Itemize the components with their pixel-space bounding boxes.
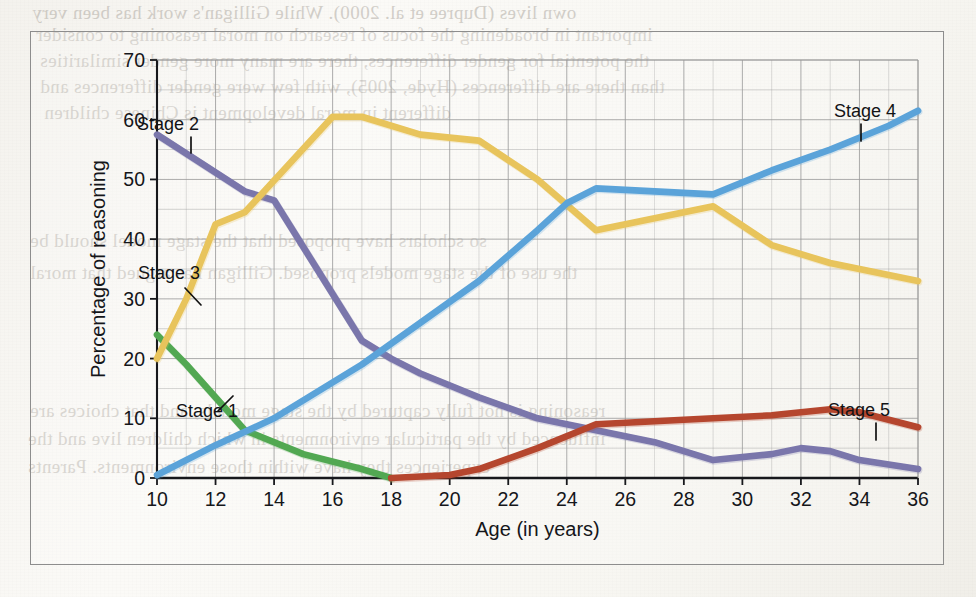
y-tick-label: 50: [123, 168, 145, 190]
y-tick-label: 20: [123, 348, 145, 370]
y-tick-label: 30: [123, 288, 145, 310]
x-tick-label: 16: [322, 488, 344, 510]
x-tick-label: 20: [439, 488, 461, 510]
x-tick-label: 32: [790, 488, 812, 510]
chart-annotations: Stage 1Stage 2Stage 3Stage 4Stage 5: [137, 101, 896, 440]
x-tick-label: 34: [849, 488, 871, 510]
x-tick-label: 22: [497, 488, 519, 510]
x-tick-label: 30: [732, 488, 754, 510]
x-tick-label: 26: [614, 488, 636, 510]
series-label-stage-1: Stage 1: [176, 401, 238, 421]
y-tick-label: 40: [123, 228, 145, 250]
x-tick-label: 18: [380, 488, 402, 510]
y-axis-title: Percentage of reasoning: [87, 160, 109, 378]
x-axis-title: Age (in years): [475, 518, 600, 540]
x-tick-label: 14: [263, 488, 285, 510]
y-tick-label: 70: [123, 49, 145, 71]
x-tick-label: 36: [907, 488, 929, 510]
chart-svg: 0102030405060701012141618202224262830323…: [0, 0, 976, 597]
series-label-stage-4: Stage 4: [834, 101, 896, 121]
line-chart: 0102030405060701012141618202224262830323…: [0, 0, 976, 597]
x-tick-label: 24: [556, 488, 578, 510]
y-tick-label: 10: [123, 407, 145, 429]
x-tick-label: 28: [673, 488, 695, 510]
series-label-stage-2: Stage 2: [137, 114, 199, 134]
chart-series-layer: [157, 111, 919, 479]
y-tick-label: 0: [134, 467, 145, 489]
x-tick-label: 10: [146, 488, 168, 510]
series-label-stage-3: Stage 3: [138, 263, 200, 283]
x-tick-label: 12: [205, 488, 227, 510]
series-label-stage-5: Stage 5: [828, 400, 890, 420]
chart-tick-labels: 0102030405060701012141618202224262830323…: [123, 49, 929, 510]
